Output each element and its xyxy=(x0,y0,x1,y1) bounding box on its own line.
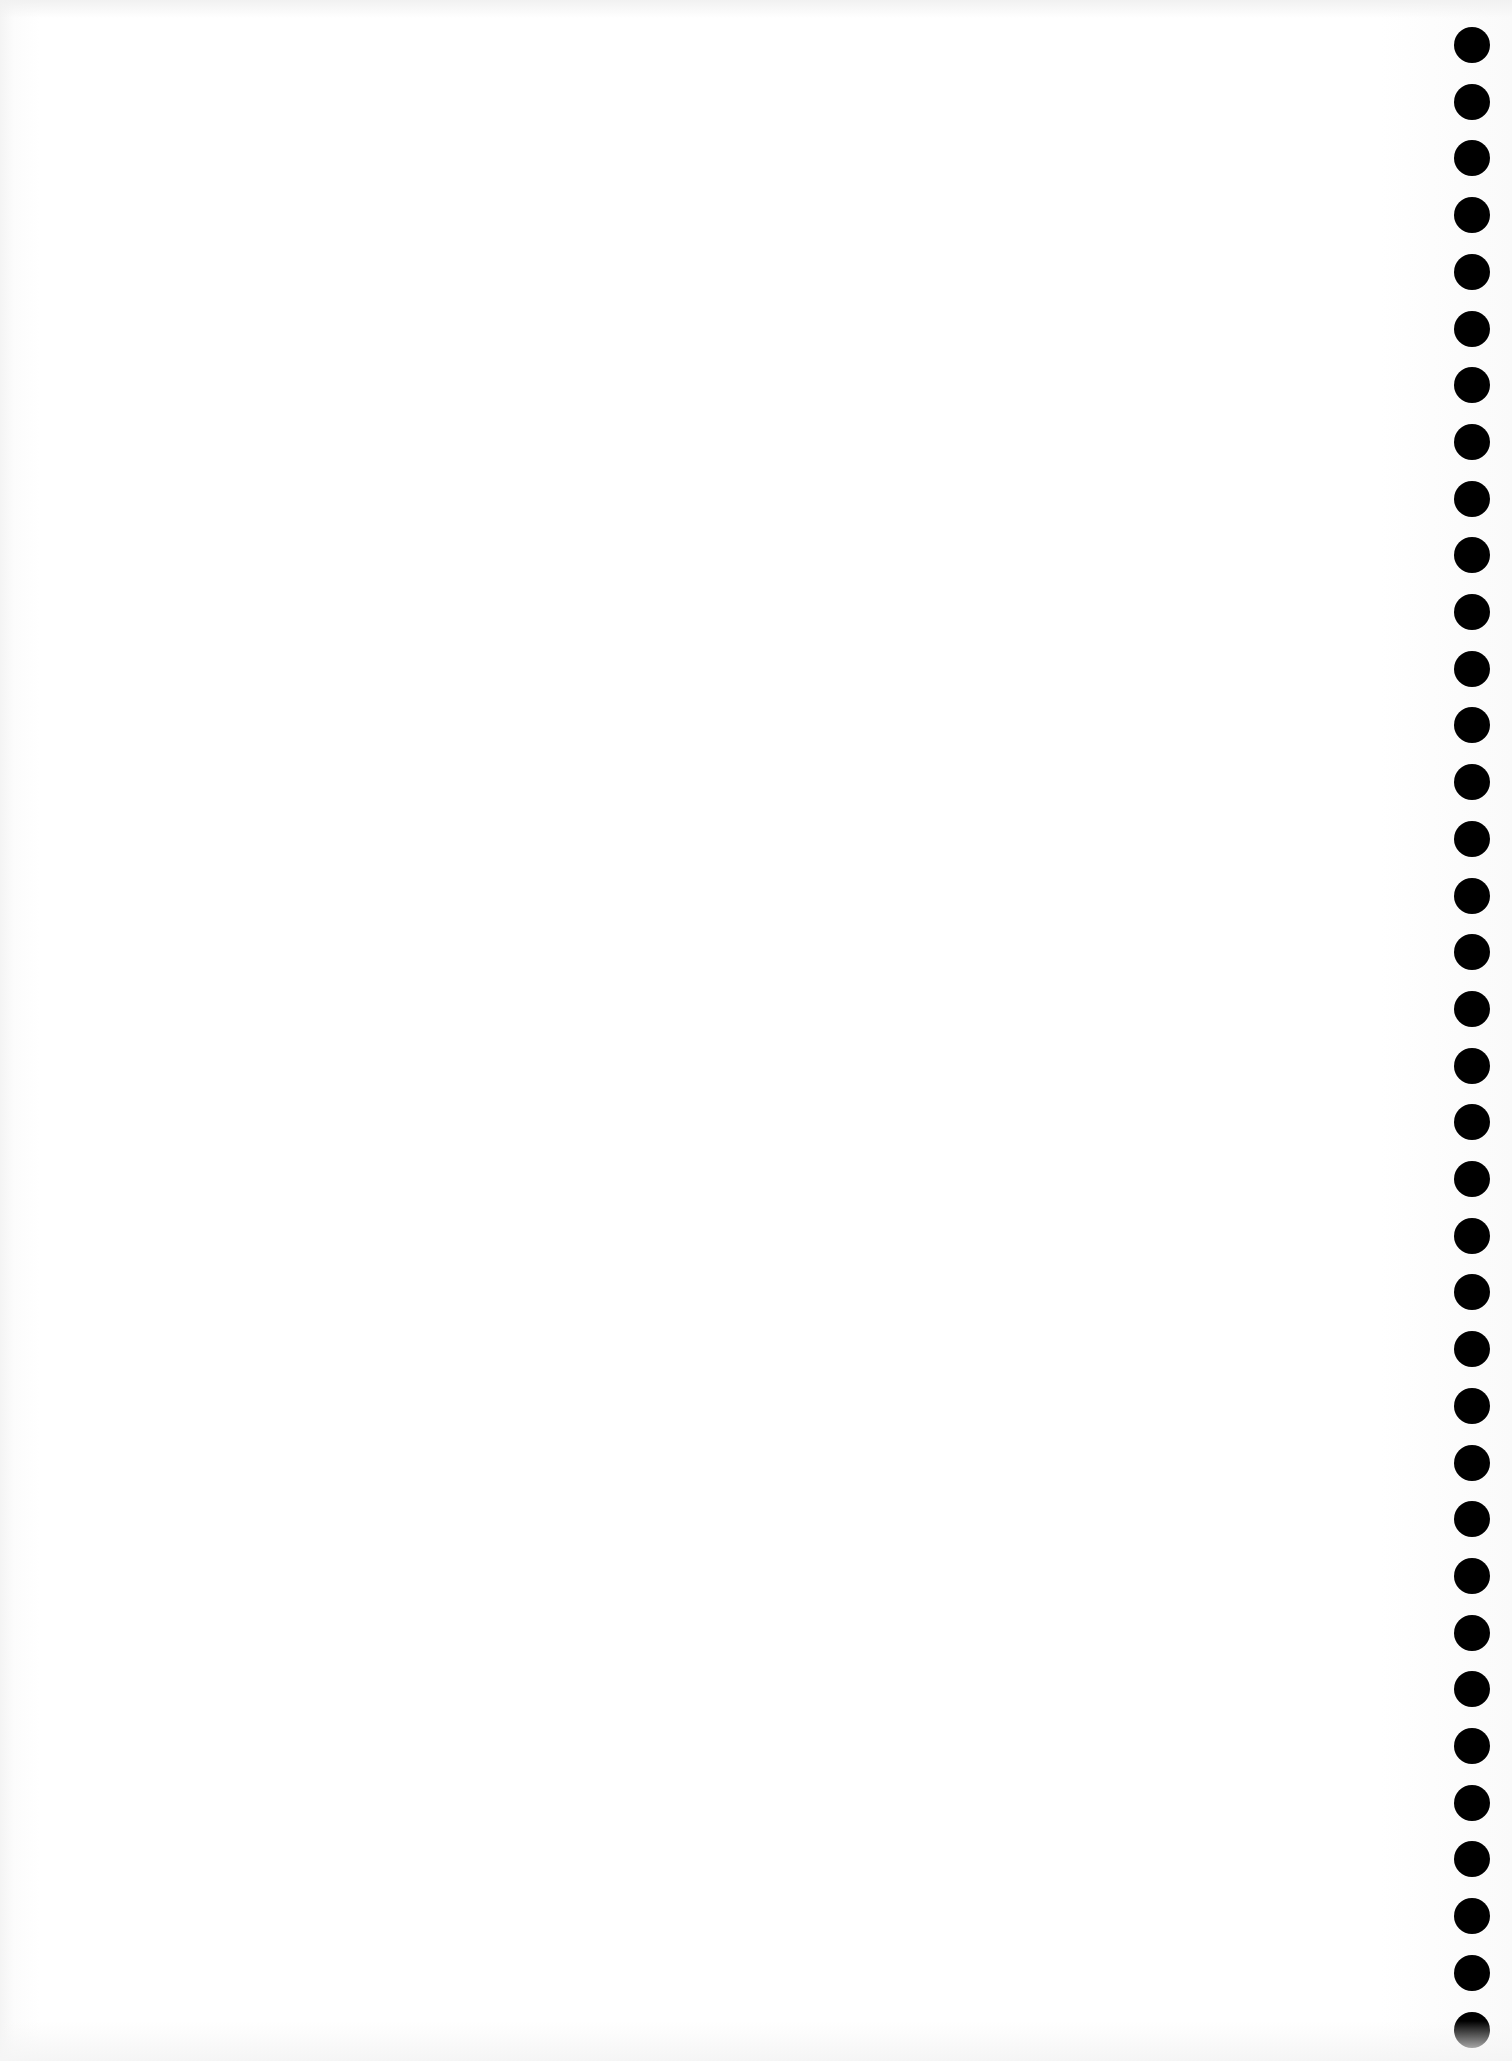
punch-hole-icon xyxy=(1454,764,1490,800)
punch-hole-icon xyxy=(1454,1728,1490,1764)
punch-hole-icon xyxy=(1454,991,1490,1027)
punch-hole-icon xyxy=(1454,367,1490,403)
punch-hole-icon xyxy=(1454,1898,1490,1934)
punch-hole-icon xyxy=(1454,821,1490,857)
punch-hole-icon xyxy=(1454,1501,1490,1537)
punch-hole-icon xyxy=(1454,1841,1490,1877)
punch-hole-icon xyxy=(1454,197,1490,233)
punch-hole-icon xyxy=(1454,1615,1490,1651)
punch-hole-icon xyxy=(1454,651,1490,687)
punch-hole-icon xyxy=(1454,254,1490,290)
punch-hole-icon xyxy=(1454,84,1490,120)
punch-hole-icon xyxy=(1454,424,1490,460)
punch-hole-icon xyxy=(1454,1785,1490,1821)
punch-hole-icon xyxy=(1454,1671,1490,1707)
punch-hole-icon xyxy=(1454,934,1490,970)
punch-hole-icon xyxy=(1454,1161,1490,1197)
punch-hole-icon xyxy=(1454,594,1490,630)
binder-punch-hole-column xyxy=(1454,0,1492,2061)
punch-hole-icon xyxy=(1454,140,1490,176)
punch-hole-icon xyxy=(1454,1274,1490,1310)
punch-hole-icon xyxy=(1454,27,1490,63)
punch-hole-icon xyxy=(1454,1218,1490,1254)
punch-hole-icon xyxy=(1454,1331,1490,1367)
punch-hole-icon xyxy=(1454,311,1490,347)
punch-hole-icon xyxy=(1454,537,1490,573)
blank-scanned-page xyxy=(0,0,1512,2061)
punch-hole-icon xyxy=(1454,1048,1490,1084)
punch-hole-icon xyxy=(1454,2012,1490,2048)
punch-hole-icon xyxy=(1454,1445,1490,1481)
punch-hole-icon xyxy=(1454,481,1490,517)
punch-hole-icon xyxy=(1454,1558,1490,1594)
punch-hole-icon xyxy=(1454,878,1490,914)
punch-hole-icon xyxy=(1454,1955,1490,1991)
punch-hole-icon xyxy=(1454,707,1490,743)
punch-hole-icon xyxy=(1454,1388,1490,1424)
punch-hole-icon xyxy=(1454,1104,1490,1140)
